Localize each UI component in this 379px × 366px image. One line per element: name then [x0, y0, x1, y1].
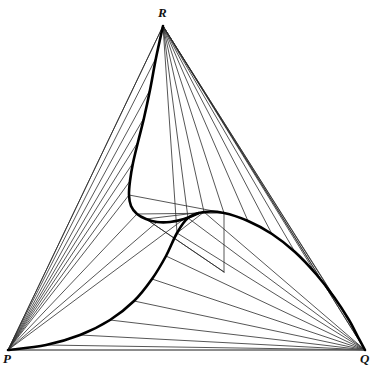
fan-line-from-p	[8, 58, 156, 350]
triangle-edges	[8, 26, 365, 350]
fan-line-from-q	[152, 279, 365, 350]
fan-line-from-p	[8, 142, 138, 350]
triangle-edge-rq	[163, 26, 365, 350]
fan-line-from-q	[166, 256, 365, 350]
vertex-label-q: Q	[360, 352, 369, 365]
fan-line-from-p	[8, 118, 144, 350]
fan-line-from-q	[177, 233, 365, 350]
fan-line-from-p	[8, 195, 129, 350]
fan-line-from-p	[8, 181, 130, 350]
fan-line-from-r	[163, 26, 272, 234]
triangle-edge-pr	[8, 26, 163, 350]
spiral-curve	[8, 26, 365, 350]
fan-line-from-q	[204, 212, 365, 350]
fan-line-from-r	[163, 26, 224, 213]
inner-chord	[137, 213, 224, 214]
vertex-label-r: R	[158, 6, 167, 19]
vertex-label-p: P	[3, 352, 11, 365]
fan-line-from-p	[8, 219, 184, 350]
fan-line-from-q	[110, 320, 365, 350]
fan-line-from-p	[8, 222, 157, 350]
spiral-upper-arc	[129, 26, 199, 222]
fan-line-from-q	[134, 301, 365, 350]
fan-line-from-p	[8, 90, 150, 350]
fan-lines-from-P	[8, 26, 184, 350]
fan-line-from-p	[8, 163, 133, 350]
fan-line-from-p	[8, 214, 137, 350]
